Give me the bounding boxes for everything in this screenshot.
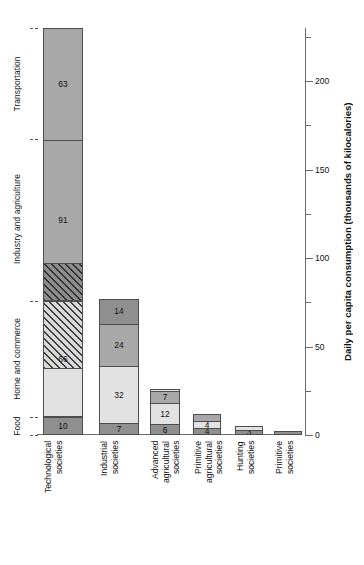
bar-1[interactable]: 10669163 bbox=[43, 28, 83, 435]
bar-segment: 14 bbox=[99, 299, 139, 324]
x-axis-label: Primitive societies bbox=[274, 441, 302, 559]
bar-segment: 7 bbox=[150, 391, 180, 403]
x-axis-label: Industrial societies bbox=[99, 441, 139, 559]
bar-segment: 24 bbox=[99, 324, 139, 366]
plot-area: 10669163732241461271444322 bbox=[37, 28, 302, 435]
value-axis-minor-tick bbox=[305, 391, 311, 392]
bar-2[interactable]: 7322414 bbox=[99, 299, 139, 435]
segment-value-label: 3 bbox=[247, 430, 252, 435]
value-axis-tick-label: 200 bbox=[315, 76, 329, 86]
value-axis-minor-tick bbox=[305, 37, 311, 38]
bar-segment: 4 bbox=[193, 414, 221, 421]
segment-value-label: 4 bbox=[205, 421, 210, 428]
category-axis-label: Home and commerce bbox=[6, 301, 28, 418]
bar-segment: 6 bbox=[150, 424, 180, 435]
segment-value-label: 91 bbox=[43, 215, 83, 225]
x-axis-label: Primitive agricultural societies bbox=[193, 441, 221, 559]
bar-4[interactable]: 444 bbox=[193, 414, 221, 435]
bar-subsegment bbox=[43, 263, 83, 300]
value-axis-tick bbox=[305, 170, 313, 171]
segment-value-label: 12 bbox=[160, 410, 169, 418]
value-axis-title: Daily per capita consumption (thousands … bbox=[336, 28, 358, 435]
bar-6[interactable]: 2 bbox=[274, 431, 302, 435]
segment-value-label: 63 bbox=[58, 80, 67, 88]
bar-segment: 4 bbox=[193, 428, 221, 435]
category-axis-label: Industry and agriculture bbox=[6, 139, 28, 300]
segment-value-label: 6 bbox=[163, 426, 168, 434]
category-axis-label: Transportation bbox=[6, 28, 28, 139]
segment-value-label: 10 bbox=[58, 422, 67, 430]
chart-root: FoodHome and commerceIndustry and agricu… bbox=[0, 0, 364, 565]
segment-value-label: 4 bbox=[205, 428, 210, 435]
value-axis-tick bbox=[305, 347, 313, 348]
x-axis-labels: Technological societiesIndustrial societ… bbox=[37, 441, 302, 561]
bar-3[interactable]: 61271 bbox=[150, 389, 180, 435]
value-axis-tick-label: 150 bbox=[315, 165, 329, 175]
value-axis-minor-tick bbox=[305, 214, 311, 215]
bar-segment: 91 bbox=[43, 140, 83, 301]
x-axis-label: Advanced agricultural societies bbox=[150, 441, 180, 559]
value-axis-minor-tick bbox=[305, 125, 311, 126]
value-axis-tick-label: 50 bbox=[315, 342, 325, 352]
category-boundary-tick bbox=[30, 435, 38, 436]
bar-subsegment bbox=[43, 368, 83, 418]
bar-segment: 7 bbox=[99, 423, 139, 435]
x-axis-label: Technological societies bbox=[43, 441, 83, 559]
segment-value-label: 7 bbox=[163, 393, 168, 401]
bar-segment: 63 bbox=[43, 28, 83, 139]
bar-5[interactable]: 32 bbox=[235, 426, 263, 435]
category-axis-label: Food bbox=[6, 417, 28, 435]
bar-segment: 10 bbox=[43, 417, 83, 435]
x-axis-label: Hunting societies bbox=[235, 441, 263, 559]
segment-value-label: 66 bbox=[43, 354, 83, 364]
bar-segment: 3 bbox=[235, 430, 263, 435]
segment-value-label: 14 bbox=[114, 307, 123, 315]
bar-segment: 12 bbox=[150, 403, 180, 424]
segment-value-label: 7 bbox=[117, 425, 122, 433]
value-axis-tick bbox=[305, 435, 313, 436]
value-axis-tick-label: 0 bbox=[315, 430, 320, 440]
bar-segment: 4 bbox=[193, 421, 221, 428]
bar-segment: 2 bbox=[235, 426, 263, 430]
value-axis-line bbox=[305, 28, 306, 435]
bar-subsegment bbox=[43, 140, 83, 264]
bar-segment: 32 bbox=[99, 366, 139, 423]
value-axis-tick bbox=[305, 81, 313, 82]
value-axis-minor-tick bbox=[305, 302, 311, 303]
value-axis-tick-label: 100 bbox=[315, 253, 329, 263]
bar-segment: 1 bbox=[150, 389, 180, 391]
bar-segment: 66 bbox=[43, 301, 83, 418]
value-axis-tick bbox=[305, 258, 313, 259]
bar-segment: 2 bbox=[274, 431, 302, 435]
segment-value-label: 32 bbox=[114, 391, 123, 399]
segment-value-label: 24 bbox=[114, 341, 123, 349]
